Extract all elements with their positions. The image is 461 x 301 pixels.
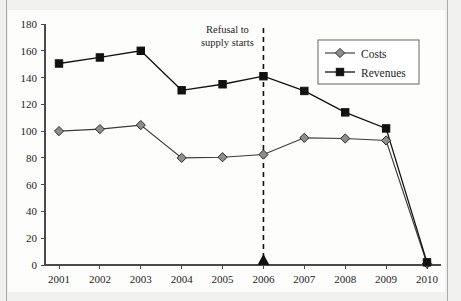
x-tick-label: 2007 bbox=[293, 273, 316, 285]
refusal-triangle-icon bbox=[257, 254, 269, 265]
y-tick-label: 100 bbox=[21, 125, 38, 137]
legend-label-revenues: Revenues bbox=[361, 67, 406, 79]
x-tick-label: 2003 bbox=[130, 273, 153, 285]
series-line-costs bbox=[59, 125, 427, 264]
legend-label-costs: Costs bbox=[361, 48, 387, 60]
y-tick-label: 20 bbox=[26, 232, 38, 244]
y-tick-label: 0 bbox=[32, 259, 38, 271]
x-tick-label: 2010 bbox=[416, 273, 439, 285]
data-point-revenues bbox=[301, 87, 308, 94]
y-tick-label: 60 bbox=[26, 179, 38, 191]
data-point-revenues bbox=[178, 87, 185, 94]
data-point-costs bbox=[218, 153, 227, 162]
data-point-revenues bbox=[423, 259, 430, 266]
data-point-costs bbox=[259, 150, 268, 159]
x-tick-label: 2001 bbox=[48, 273, 70, 285]
data-point-costs bbox=[54, 127, 63, 136]
data-point-revenues bbox=[55, 60, 62, 67]
x-axis-ticks: 2001200220032004200520062007200820092010 bbox=[48, 265, 439, 285]
x-tick-label: 2004 bbox=[171, 273, 194, 285]
y-tick-label: 180 bbox=[21, 18, 38, 30]
x-tick-label: 2002 bbox=[89, 273, 111, 285]
y-tick-label: 140 bbox=[21, 72, 38, 84]
chart-legend: Costs Revenues bbox=[318, 40, 419, 84]
line-chart: 020406080100120140160180 200120022003200… bbox=[0, 0, 461, 301]
annotation-line-2: supply starts bbox=[201, 37, 254, 48]
y-tick-label: 80 bbox=[26, 152, 38, 164]
x-tick-label: 2005 bbox=[212, 273, 235, 285]
x-tick-label: 2008 bbox=[334, 273, 357, 285]
data-point-revenues bbox=[342, 109, 349, 116]
y-tick-label: 160 bbox=[21, 45, 38, 57]
y-axis-ticks: 020406080100120140160180 bbox=[21, 18, 46, 271]
data-point-revenues bbox=[219, 81, 226, 88]
data-point-revenues bbox=[96, 54, 103, 61]
data-point-costs bbox=[300, 133, 309, 142]
square-marker-icon bbox=[336, 68, 343, 75]
x-tick-label: 2009 bbox=[375, 273, 398, 285]
annotation-line-1: Refusal to bbox=[206, 24, 249, 35]
data-point-revenues bbox=[382, 125, 389, 132]
y-tick-label: 40 bbox=[26, 205, 38, 217]
chart-page: 020406080100120140160180 200120022003200… bbox=[0, 0, 461, 301]
data-point-revenues bbox=[137, 47, 144, 54]
data-point-costs bbox=[95, 125, 104, 134]
data-point-revenues bbox=[260, 73, 267, 80]
x-tick-label: 2006 bbox=[252, 273, 275, 285]
y-tick-label: 120 bbox=[21, 98, 38, 110]
event-annotation-group: Refusal to supply starts bbox=[201, 24, 269, 265]
data-point-costs bbox=[341, 134, 350, 143]
